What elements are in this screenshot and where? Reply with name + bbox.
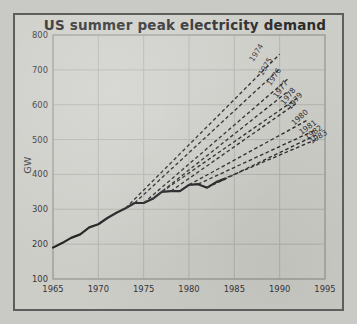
y-tick-label: 300 xyxy=(32,204,48,214)
y-tick-label: 200 xyxy=(32,239,48,249)
forecast-line-1975 xyxy=(135,69,280,203)
figure-canvas: 1974197519761977197819791980198119821983… xyxy=(0,0,357,324)
actual-demand-line xyxy=(53,179,225,248)
y-tick-label: 500 xyxy=(32,135,48,145)
forecast-line-1980 xyxy=(189,120,307,184)
gridlines-group xyxy=(53,35,325,279)
y-tick-label: 400 xyxy=(32,169,48,179)
forecast-year-label: 1974 xyxy=(247,42,265,63)
y-tick-label: 100 xyxy=(32,274,48,284)
chart-paper: 1974197519761977197819791980198119821983… xyxy=(13,13,344,311)
chart-title: US summer peak electricity demand xyxy=(44,17,326,33)
x-tick-label: 1995 xyxy=(314,284,335,294)
x-tick-label: 1980 xyxy=(178,284,199,294)
forecast-line-1976 xyxy=(144,78,289,203)
y-axis-title: GW xyxy=(22,156,33,174)
y-tick-label: 700 xyxy=(32,65,48,75)
x-tick-label: 1970 xyxy=(88,284,109,294)
x-tick-label: 1975 xyxy=(133,284,154,294)
chart-plot: 1974197519761977197819791980198119821983… xyxy=(15,15,342,309)
forecast-line-1977 xyxy=(153,91,289,199)
forecast-line-1981 xyxy=(198,130,316,184)
y-axis-tick-labels: 100200300400500600700800 xyxy=(32,30,48,284)
x-tick-label: 1965 xyxy=(42,284,63,294)
x-tick-label: 1990 xyxy=(269,284,290,294)
y-tick-label: 600 xyxy=(32,100,48,110)
forecast-line-1978 xyxy=(162,98,298,192)
data-series-group xyxy=(53,54,316,247)
x-tick-label: 1985 xyxy=(224,284,245,294)
x-axis-tick-labels: 1965197019751980198519901995 xyxy=(42,284,335,294)
